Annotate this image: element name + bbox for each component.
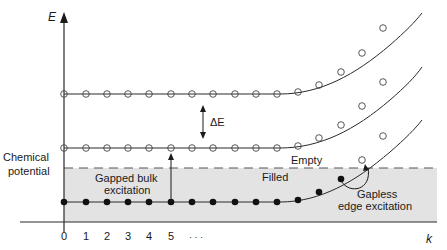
gapped-label-line1: Gapped bulk: [95, 172, 158, 184]
gapped-excitation-arrow-icon: [168, 153, 174, 160]
gapped-label-line2: excitation: [104, 184, 150, 196]
energy-band-diagram: E k 0 1 2 3 4 5 · · · Chemical potential…: [0, 0, 447, 250]
x-tick-ellipsis: · · ·: [189, 232, 203, 242]
x-tick: 4: [146, 230, 152, 242]
chemical-potential-label-line1: Chemical: [3, 151, 49, 163]
gapless-label-line2: edge excitation: [338, 200, 412, 212]
x-tick: 1: [83, 230, 89, 242]
filled-label: Filled: [262, 171, 288, 183]
delta-e-label: ΔE: [210, 116, 225, 128]
y-axis-label: E: [48, 10, 57, 24]
y-axis-arrow-icon: [60, 12, 68, 23]
x-tick: 3: [125, 230, 131, 242]
gapless-label-line1: Gapless: [357, 188, 398, 200]
x-tick: 0: [61, 230, 67, 242]
delta-e-arrow-up-icon: [200, 105, 206, 112]
upper-band-markers: [61, 25, 387, 98]
x-tick-labels: 0 1 2 3 4 5 · · ·: [61, 230, 203, 242]
x-axis-label: k: [426, 232, 433, 246]
delta-e-arrow-down-icon: [200, 132, 206, 139]
middle-band-curve: [64, 67, 422, 148]
empty-label: Empty: [291, 154, 323, 166]
chemical-potential-label-line2: potential: [8, 165, 50, 177]
x-tick: 5: [168, 230, 174, 242]
middle-band-markers: [61, 79, 387, 152]
upper-band-curve: [64, 13, 422, 94]
x-tick: 2: [104, 230, 110, 242]
